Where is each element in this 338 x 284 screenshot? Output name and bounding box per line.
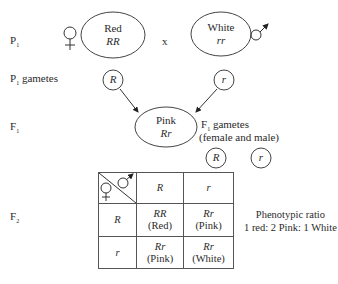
punnett-cell: Rr (Pink) <box>137 237 184 269</box>
arrow-r-to-f1 <box>196 89 217 112</box>
f1-text: Pink Rr <box>136 114 196 140</box>
row-header: R <box>99 204 137 237</box>
female-symbol-icon <box>64 27 76 50</box>
p1-gametes-label: P1 gametes <box>10 72 58 86</box>
f1-gamete-r: r <box>251 151 271 164</box>
f1-gamete-R: R <box>206 151 226 164</box>
f1-phenotype: Pink <box>136 114 196 127</box>
male-phenotype: White <box>191 21 251 34</box>
female-parent-text: Red RR <box>83 22 143 48</box>
cell-genotype: RR <box>137 208 183 220</box>
female-phenotype: Red <box>83 22 143 35</box>
male-genotype: rr <box>191 34 251 47</box>
male-symbol-icon <box>251 24 268 40</box>
punnett-corner <box>99 173 137 204</box>
cell-genotype: Rr <box>184 208 233 220</box>
cross-symbol: x <box>162 35 168 47</box>
f2-label: F2 <box>10 210 19 224</box>
phenotypic-ratio: Phenotypic ratio 1 red: 2 Pink: 1 White <box>244 208 337 234</box>
col-header: r <box>184 173 234 204</box>
cell-genotype: Rr <box>184 241 233 253</box>
female-gamete: R <box>103 73 123 86</box>
cell-phenotype: (Red) <box>137 220 183 232</box>
ratio-value: 1 red: 2 Pink: 1 White <box>244 221 337 234</box>
row-header: r <box>99 237 137 269</box>
cell-phenotype: (White) <box>184 253 233 265</box>
f1-genotype: Rr <box>136 127 196 140</box>
cell-phenotype: (Pink) <box>137 253 183 265</box>
male-parent-text: White rr <box>191 21 251 47</box>
cell-phenotype: (Pink) <box>184 220 233 232</box>
col-header: R <box>137 173 184 204</box>
f1-gametes-note: (female and male) <box>199 131 279 143</box>
male-gamete: r <box>214 73 234 86</box>
punnett-cell: Rr (Pink) <box>184 204 234 237</box>
punnett-cell: RR (Red) <box>137 204 184 237</box>
p1-label: P1 <box>10 34 19 48</box>
punnett-square: R r R RR (Red) Rr (Pink) r Rr (Pink) Rr … <box>98 172 234 269</box>
f1-label: F1 <box>10 120 19 134</box>
arrow-R-to-f1 <box>120 89 138 112</box>
punnett-cell: Rr (White) <box>184 237 234 269</box>
ratio-title: Phenotypic ratio <box>244 208 337 221</box>
cell-genotype: Rr <box>137 241 183 253</box>
female-genotype: RR <box>83 35 143 48</box>
